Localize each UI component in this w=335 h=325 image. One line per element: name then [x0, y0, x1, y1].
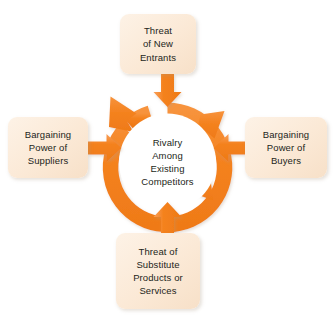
force-box-threat-of-substitute-products-or-services[interactable]: Threat of Substitute Products or Service…: [116, 233, 200, 309]
force-label-threat-of-new-entrants: Threat of New Entrants: [140, 24, 176, 64]
arrow-top-threat-of-new-entrants: [154, 74, 182, 107]
force-box-bargaining-power-of-suppliers[interactable]: Bargaining Power of Suppliers: [8, 117, 88, 178]
force-label-bargaining-power-of-buyers: Bargaining Power of Buyers: [263, 128, 309, 168]
force-box-threat-of-new-entrants[interactable]: Threat of New Entrants: [120, 14, 196, 74]
force-label-bargaining-power-of-suppliers: Bargaining Power of Suppliers: [25, 128, 71, 168]
porters-five-forces-diagram: Threat of New Entrants Bargaining Power …: [0, 0, 335, 325]
force-box-bargaining-power-of-buyers[interactable]: Bargaining Power of Buyers: [245, 117, 327, 178]
ring-inner-disc: [119, 114, 216, 211]
force-label-threat-of-substitute-products-or-services: Threat of Substitute Products or Service…: [133, 245, 183, 298]
